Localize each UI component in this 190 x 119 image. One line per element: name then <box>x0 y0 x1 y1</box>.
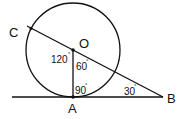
label-b: B <box>167 91 176 106</box>
point-c <box>30 27 33 30</box>
point-o <box>71 48 75 52</box>
secant-line-cb <box>27 26 163 97</box>
angle-aoc-unit: ° <box>68 51 71 57</box>
angle-aoc-value: 120 <box>51 54 68 65</box>
angle-oab-unit: ° <box>85 82 88 88</box>
geometry-diagram: C O A B 120 ° 60 ° 90 ° 30 ° <box>0 0 190 119</box>
label-o: O <box>79 36 89 51</box>
label-a: A <box>68 101 77 116</box>
label-c: C <box>9 25 18 40</box>
angle-aob-unit: ° <box>86 58 89 64</box>
